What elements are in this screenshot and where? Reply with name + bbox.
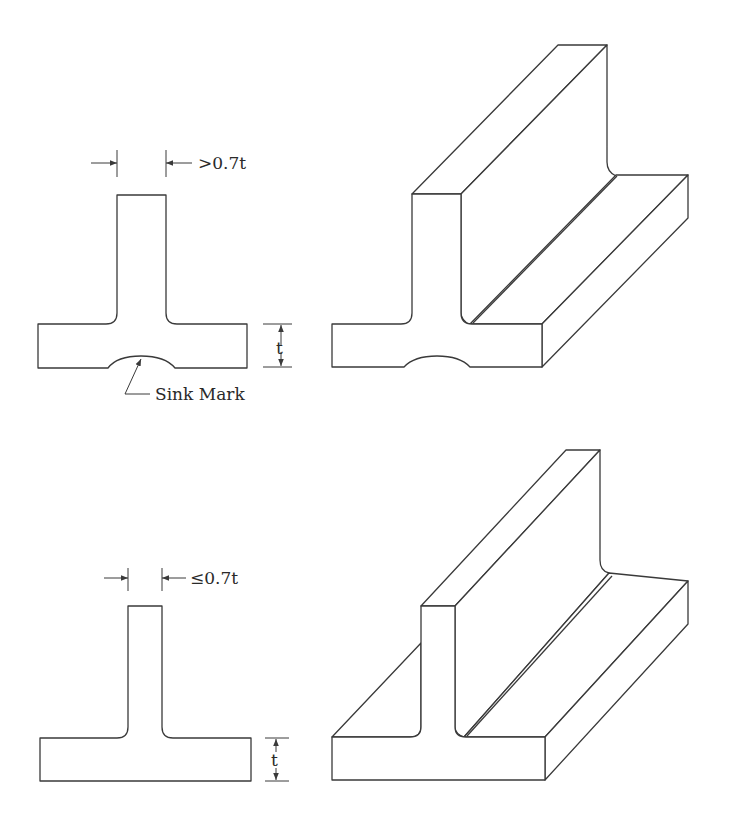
bottom-rib-width-dimension: ≤0.7t: [104, 568, 238, 591]
sink-mark-label: Sink Mark: [155, 384, 245, 404]
top-wall-dimension-label: t: [276, 338, 283, 358]
top-isometric-part: [332, 45, 688, 367]
bottom-wall-thickness-dimension: t: [265, 738, 289, 781]
bottom-wall-dimension-label: t: [271, 750, 278, 770]
diagram-canvas: >0.7t t Sink Mark ≤0.7t: [0, 0, 729, 820]
top-wall-thickness-dimension: t: [263, 324, 292, 367]
bottom-section-profile: [40, 606, 251, 781]
sink-mark-callout: Sink Mark: [125, 359, 245, 404]
bottom-rib-dimension-label: ≤0.7t: [190, 568, 238, 588]
top-rib-width-dimension: >0.7t: [91, 150, 246, 177]
top-rib-dimension-label: >0.7t: [198, 153, 246, 173]
bottom-isometric-part: [332, 450, 688, 780]
top-section-profile: [38, 195, 247, 368]
